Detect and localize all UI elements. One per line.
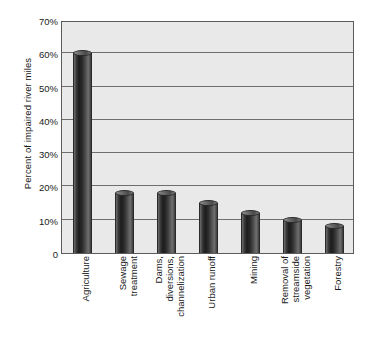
x-axis-tick-labels: AgricultureSewagetreatmentDams,diversion… bbox=[61, 256, 354, 347]
bar[interactable] bbox=[283, 220, 302, 253]
bar[interactable] bbox=[73, 53, 92, 253]
bar-top-ellipse bbox=[157, 190, 176, 196]
bar[interactable] bbox=[199, 203, 218, 253]
y-tick-label: 0 bbox=[20, 249, 58, 260]
bar[interactable] bbox=[241, 213, 260, 253]
bar-top-ellipse bbox=[73, 50, 92, 56]
x-tick-label: Mining bbox=[248, 256, 259, 342]
x-tick-label: Removal ofstreamsidevegetation bbox=[279, 256, 312, 342]
bar-slot bbox=[313, 22, 355, 253]
bar-top-ellipse bbox=[283, 217, 302, 223]
bar-slot bbox=[146, 22, 188, 253]
bar[interactable] bbox=[157, 193, 176, 253]
y-tick-label: 10% bbox=[20, 215, 58, 226]
bar-top-ellipse bbox=[241, 210, 260, 216]
bar-slot bbox=[62, 22, 104, 253]
x-tick-label-line: streamside bbox=[290, 256, 301, 342]
x-tick-label-line: Agriculture bbox=[80, 256, 91, 342]
x-tick-label-line: Urban runoff bbox=[206, 256, 217, 342]
x-tick-label: Forestry bbox=[332, 256, 343, 342]
bar-slot bbox=[104, 22, 146, 253]
x-tick-label-line: Mining bbox=[248, 256, 259, 342]
y-tick-label: 30% bbox=[20, 149, 58, 160]
y-tick-label: 70% bbox=[20, 16, 58, 27]
x-tick-label: Dams,diversions,channelization bbox=[153, 256, 186, 342]
bar-chart-figure: Percent of impaired river miles 70%60%50… bbox=[0, 0, 369, 347]
plot-area bbox=[61, 21, 354, 254]
x-tick-label: Agriculture bbox=[80, 256, 91, 342]
bar-top-ellipse bbox=[115, 190, 134, 196]
x-tick-label-line: Removal of bbox=[279, 256, 290, 342]
y-axis-tick-labels: 70%60%50%40%30%20%10%0 bbox=[20, 0, 58, 347]
y-tick-label: 50% bbox=[20, 82, 58, 93]
x-tick-label-line: Dams, bbox=[153, 256, 164, 342]
x-tick-label-line: diversions, bbox=[164, 256, 175, 342]
y-tick-label: 60% bbox=[20, 49, 58, 60]
y-tick-label: 20% bbox=[20, 182, 58, 193]
bar-top-ellipse bbox=[325, 223, 344, 229]
x-tick-label-line: Sewage bbox=[117, 256, 128, 342]
x-tick-label: Urban runoff bbox=[206, 256, 217, 342]
x-tick-label-line: Forestry bbox=[332, 256, 343, 342]
y-tick-label: 40% bbox=[20, 115, 58, 126]
bar-slot bbox=[188, 22, 230, 253]
x-tick-label-line: treatment bbox=[128, 256, 139, 342]
bar[interactable] bbox=[325, 226, 344, 253]
bar[interactable] bbox=[115, 193, 134, 253]
x-tick-label-line: channelization bbox=[175, 256, 186, 342]
bar-top-ellipse bbox=[199, 200, 218, 206]
bar-series bbox=[62, 22, 353, 253]
bar-slot bbox=[271, 22, 313, 253]
bar-slot bbox=[229, 22, 271, 253]
x-tick-label: Sewagetreatment bbox=[117, 256, 139, 342]
x-tick-label-line: vegetation bbox=[301, 256, 312, 342]
